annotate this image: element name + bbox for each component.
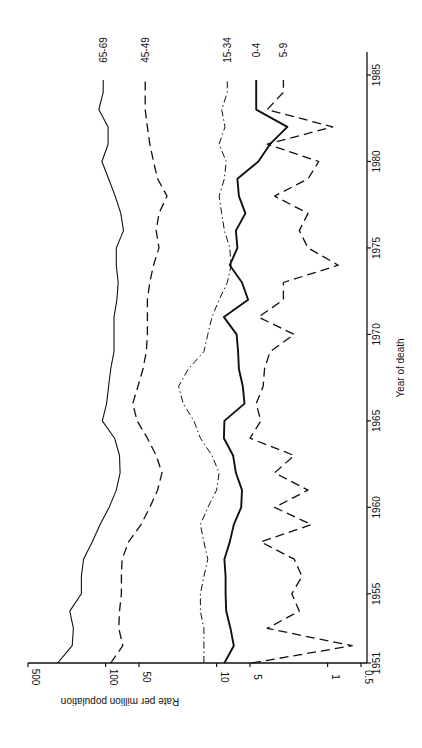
year-tick-label: 1985 (371, 63, 382, 86)
series-line-0-4 (224, 80, 288, 663)
year-tick-label: 1955 (371, 582, 382, 605)
value-tick-label: 10 (219, 671, 230, 683)
year-tick-label: 1951 (371, 651, 382, 674)
year-axis-title: Year of death (395, 338, 406, 397)
year-axis: 19511955196019651970197519801985 (367, 52, 382, 674)
value-axis-title: Rate per million population (61, 696, 179, 707)
series-lines (58, 80, 353, 663)
year-tick-label: 1960 (371, 496, 382, 519)
mortality-rate-chart: 0.5151050100500 195119551960196519701975… (0, 0, 422, 748)
series-label: 65-69 (98, 37, 109, 63)
series-label: 45-49 (140, 37, 151, 63)
year-tick-label: 1965 (371, 409, 382, 432)
series-label: 5-9 (278, 42, 289, 57)
year-tick-label: 1980 (371, 150, 382, 173)
value-tick-label: 500 (30, 669, 41, 686)
series-line-5-9 (250, 80, 352, 663)
series-label: 0-4 (251, 42, 262, 57)
value-axis: 0.5151050100500 (28, 663, 374, 686)
series-line-45-49 (111, 80, 167, 663)
value-tick-label: 5 (252, 674, 263, 680)
value-tick-label: 100 (108, 669, 119, 686)
series-line-65-69 (58, 80, 124, 663)
year-tick-label: 1975 (371, 236, 382, 259)
value-tick-label: 1 (330, 674, 341, 680)
series-line-15-34 (179, 80, 232, 663)
year-tick-label: 1970 (371, 323, 382, 346)
series-labels: 65-6945-4915-340-45-9 (98, 37, 289, 63)
value-tick-label: 50 (141, 671, 152, 683)
series-label: 15-34 (222, 37, 233, 63)
